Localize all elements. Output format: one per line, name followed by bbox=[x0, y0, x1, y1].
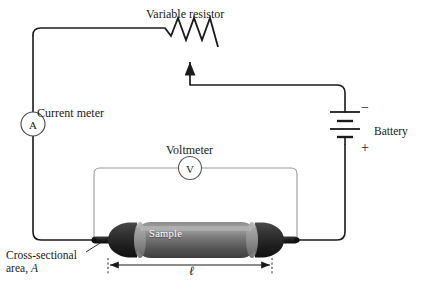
variable-resistor-zigzag bbox=[165, 18, 218, 47]
cross-section-area-symbol: A bbox=[31, 262, 38, 274]
resistivity-circuit-figure: − + A V bbox=[0, 0, 422, 287]
cross-sectional-area-label: Cross-sectional area, A bbox=[6, 249, 77, 275]
cross-section-line2-prefix: area, bbox=[6, 262, 31, 274]
node-left bbox=[91, 237, 96, 242]
variable-resistor-label: Variable resistor bbox=[146, 8, 224, 22]
wire-ammeter-to-sample-left bbox=[33, 136, 94, 240]
wire-tap-to-battery bbox=[190, 85, 345, 112]
ammeter-glyph: A bbox=[29, 119, 37, 131]
node-right bbox=[294, 237, 299, 242]
wire-top-left bbox=[33, 28, 165, 35]
battery-negative-sign: − bbox=[361, 100, 369, 115]
voltmeter-glyph: V bbox=[186, 163, 194, 175]
sample-specimen bbox=[92, 222, 298, 258]
cross-section-line1: Cross-sectional bbox=[6, 249, 77, 261]
voltmeter-label: Voltmeter bbox=[166, 144, 213, 158]
sample-cap-left bbox=[108, 223, 137, 258]
current-meter-label: Current meter bbox=[37, 107, 104, 121]
battery-positive-sign: + bbox=[361, 140, 369, 155]
length-symbol-label: ℓ bbox=[189, 264, 194, 278]
battery-symbol bbox=[330, 112, 360, 145]
battery-label: Battery bbox=[374, 125, 408, 138]
wire-battery-to-sample-right bbox=[297, 145, 345, 240]
sample-cap-right bbox=[255, 223, 284, 258]
voltmeter-symbol: V bbox=[179, 157, 202, 180]
sample-label: Sample bbox=[149, 228, 182, 239]
